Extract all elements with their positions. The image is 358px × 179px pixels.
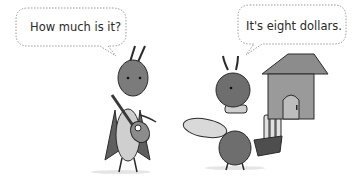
bread-loaf-icon [182,115,228,140]
house-icon [262,54,328,119]
speech-bubble-left: How much is it? [16,8,126,56]
speech-text-left: How much is it? [30,20,121,34]
grasshopper-character [91,46,156,174]
illustration: How much is it? It's eight dollars. [0,0,358,179]
speech-text-right: It's eight dollars. [246,19,342,33]
speech-bubble-right: It's eight dollars. [238,5,346,55]
